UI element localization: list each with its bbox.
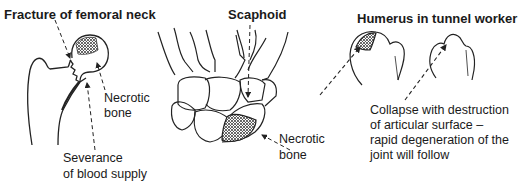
- scaphoid-title: Scaphoid: [228, 8, 287, 22]
- severance-label-2: of blood supply: [63, 167, 147, 181]
- humerus-caption-2: of articular surface –: [370, 118, 483, 132]
- scaphoid-necrotic-label-1: Necrotic: [279, 132, 325, 146]
- femur-drawing: [28, 20, 109, 150]
- humerus-caption-4: joint will follow: [370, 148, 449, 162]
- femur-necrotic-label-2: bone: [104, 106, 132, 120]
- humerus-caption-3: rapid degeneration of the: [370, 133, 509, 147]
- scaphoid-necrotic-label-2: bone: [279, 148, 307, 162]
- femur-title: Fracture of femoral neck: [4, 8, 156, 22]
- humerus-drawing: [320, 32, 475, 100]
- humerus-caption-1: Collapse with destruction: [370, 103, 509, 117]
- femur-necrotic-label-1: Necrotic: [104, 91, 150, 105]
- wrist-drawing: [158, 25, 290, 150]
- humerus-title: Humerus in tunnel worker: [357, 12, 517, 26]
- severance-label-1: Severance: [63, 151, 123, 165]
